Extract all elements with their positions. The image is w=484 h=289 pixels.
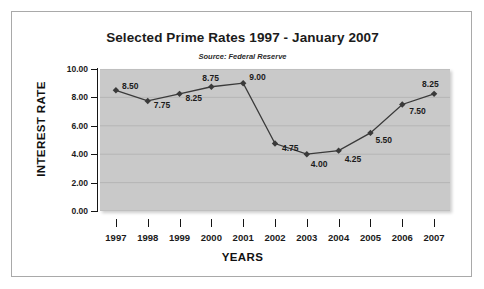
data-point-marker: [272, 140, 278, 146]
data-point-value-label: 8.50: [122, 81, 139, 91]
data-point-value-label: 4.25: [345, 154, 362, 164]
chart-source-note: Source: Federal Reserve: [12, 52, 473, 61]
data-point-value-label: 7.50: [409, 106, 426, 116]
y-axis-tick-mark: [91, 154, 98, 155]
data-point-value-label: 8.25: [186, 93, 203, 103]
data-point-value-label: 9.00: [249, 72, 266, 82]
data-point-marker: [240, 80, 246, 86]
x-axis-tick-mark: [402, 219, 403, 227]
data-point-value-label: 5.50: [375, 135, 392, 145]
y-axis-tick-mark: [91, 211, 98, 212]
data-point-value-label: 4.00: [311, 159, 328, 169]
x-axis-tick-mark: [307, 219, 308, 227]
chart-figure-frame: Selected Prime Rates 1997 - January 2007…: [11, 11, 472, 277]
gridline-group: [100, 69, 450, 211]
x-axis-tick-mark: [116, 219, 117, 227]
x-axis-tick-mark: [275, 219, 276, 227]
y-axis-tick-mark: [91, 69, 98, 70]
x-axis-tick-mark: [148, 219, 149, 227]
x-axis-tick-mark: [211, 219, 212, 227]
data-point-value-label: 8.25: [422, 79, 439, 89]
y-axis-title: INTEREST RATE: [35, 59, 47, 199]
y-axis-tick-label: 0.00: [52, 206, 88, 216]
y-axis-tick-label: 8.00: [52, 92, 88, 102]
data-point-marker: [304, 151, 310, 157]
data-point-value-label: 4.75: [282, 143, 299, 153]
y-axis-tick-label: 10.00: [52, 64, 88, 74]
y-axis-tick-mark: [91, 126, 98, 127]
y-axis-tick-mark: [91, 97, 98, 98]
x-axis-tick-mark: [434, 219, 435, 227]
y-axis-tick-label: 4.00: [52, 149, 88, 159]
series-marker-group: [113, 80, 438, 157]
line-chart-svg: [100, 69, 450, 211]
data-point-value-label: 7.75: [154, 100, 171, 110]
x-axis-tick-mark: [180, 219, 181, 227]
plot-area: [100, 69, 450, 211]
x-axis-tick-mark: [370, 219, 371, 227]
chart-title: Selected Prime Rates 1997 - January 2007: [12, 30, 473, 45]
data-point-value-label: 8.75: [202, 73, 219, 83]
y-axis-line: [97, 68, 98, 212]
y-axis-tick-mark: [91, 183, 98, 184]
data-point-marker: [335, 147, 341, 153]
x-axis-title: YEARS: [12, 251, 473, 263]
x-axis-tick-label: 2007: [414, 232, 454, 243]
data-point-marker: [176, 91, 182, 97]
data-point-marker: [145, 98, 151, 104]
y-axis-tick-label: 6.00: [52, 121, 88, 131]
y-axis-tick-label: 2.00: [52, 178, 88, 188]
x-axis-tick-mark: [243, 219, 244, 227]
data-point-marker: [113, 87, 119, 93]
data-point-marker: [431, 91, 437, 97]
x-axis-tick-mark: [339, 219, 340, 227]
data-point-marker: [208, 84, 214, 90]
